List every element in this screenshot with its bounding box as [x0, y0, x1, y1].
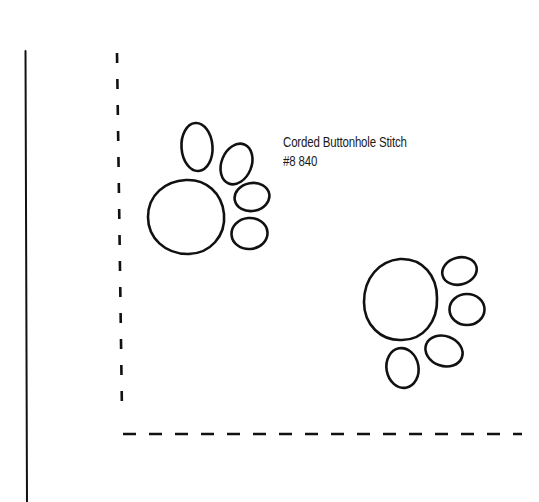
paw-toe — [439, 253, 480, 288]
stitch-name: Corded Buttonhole Stitch — [283, 133, 407, 152]
pattern-canvas: Corded Buttonhole Stitch #8 840 — [0, 0, 539, 502]
paw-toe — [232, 180, 271, 214]
paw-toe — [450, 294, 485, 325]
paw-toe — [383, 346, 421, 391]
dashed-guide-vertical — [117, 53, 122, 413]
stitch-annotation: Corded Buttonhole Stitch #8 840 — [283, 133, 407, 171]
paw-print-lower-right — [364, 253, 485, 390]
paw-toe — [421, 330, 467, 371]
thread-number: #8 840 — [283, 152, 407, 171]
paw-pad — [364, 259, 437, 340]
paw-pad — [148, 180, 224, 254]
paw-print-upper-left — [148, 122, 272, 254]
paw-toe — [215, 139, 259, 189]
border-line — [26, 51, 28, 502]
paw-toe — [230, 216, 269, 250]
paw-toe — [180, 122, 214, 172]
